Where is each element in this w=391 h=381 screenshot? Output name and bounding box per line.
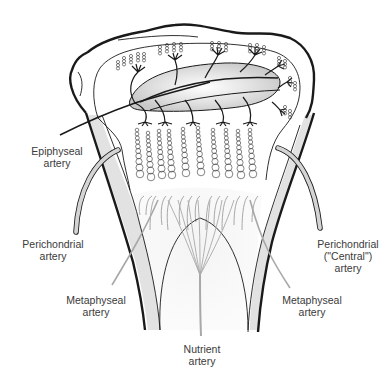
label-nutrient-artery: Nutrient artery [172, 343, 232, 367]
label-metaphyseal-artery-right: Metaphyseal artery [276, 294, 348, 318]
chondrocyte-columns [135, 126, 257, 181]
secondary-ossification-center [129, 63, 280, 111]
label-metaphyseal-artery-left: Metaphyseal artery [60, 294, 132, 318]
label-perichondrial-artery-left: Perichondrial artery [14, 238, 92, 262]
label-perichondrial-central-artery-right: Perichondrial ("Central") artery [308, 238, 388, 274]
label-epiphyseal-artery: Epiphyseal artery [22, 145, 92, 169]
growth-plate-blood-supply-diagram [0, 0, 391, 381]
